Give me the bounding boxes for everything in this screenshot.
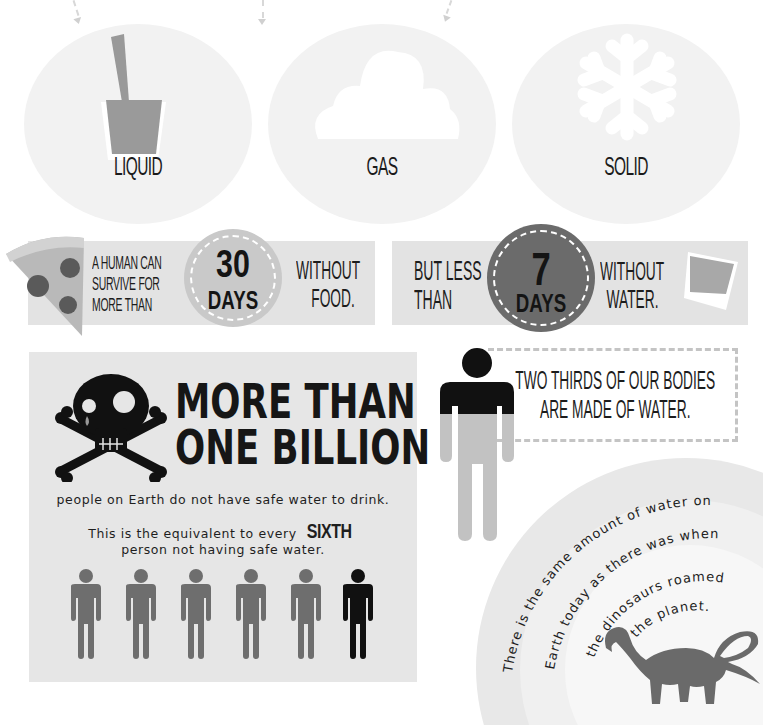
cloud-icon: [298, 34, 468, 144]
body-water-text: TWO THIRDS OF OUR BODIES ARE MADE OF WAT…: [508, 366, 723, 424]
state-liquid: LIQUID: [24, 24, 252, 224]
person-icon: [232, 568, 270, 660]
sixth-emphasis: SIXTH: [307, 520, 352, 543]
person-icon: [287, 568, 325, 660]
billion-line-1: people on Earth do not have safe water t…: [29, 492, 417, 507]
state-gas: GAS: [268, 24, 496, 224]
person-icon: [177, 568, 215, 660]
dinosaur-icon: [600, 618, 763, 710]
billion-panel: MORE THAN ONE BILLION people on Earth do…: [29, 352, 417, 682]
state-label-gas: GAS: [311, 152, 452, 181]
food-days-badge: 30 DAYS: [184, 229, 282, 327]
person-highlighted-icon: [339, 568, 377, 660]
person-icon: [67, 568, 105, 660]
person-icon: [122, 568, 160, 660]
water-days-unit: DAYS: [502, 288, 580, 319]
billion-line-2: This is the equivalent to every SIXTH: [29, 520, 417, 543]
glass-pour-icon: [96, 32, 176, 162]
water-days-badge: 7 DAYS: [487, 224, 595, 332]
food-tail-text: WITHOUT FOOD.: [296, 256, 360, 312]
skull-crossbones-icon: [53, 372, 173, 482]
water-glass-icon: [682, 250, 742, 312]
state-solid: SOLID: [512, 24, 740, 224]
state-label-solid: SOLID: [555, 152, 696, 181]
food-lead-text: A HUMAN CAN SURVIVE FOR MORE THAN: [92, 252, 162, 315]
water-lead-text: BUT LESS THAN: [414, 257, 482, 315]
water-tail-text: WITHOUT WATER.: [600, 257, 664, 313]
pizza-slice-icon: [2, 226, 86, 338]
state-label-liquid: LIQUID: [67, 152, 208, 181]
billion-headline: MORE THAN ONE BILLION: [175, 378, 430, 470]
snowflake-icon: [572, 32, 682, 142]
people-row: [67, 568, 387, 668]
food-days-number: 30: [194, 243, 272, 286]
billion-line-3: person not having safe water.: [29, 542, 417, 557]
food-days-unit: DAYS: [198, 285, 269, 316]
